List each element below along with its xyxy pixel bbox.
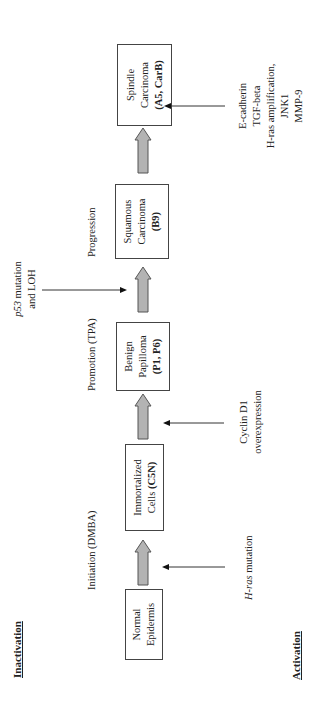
box-spindle-carcinoma: Spindle Carcinoma (A5, CarB) (117, 44, 172, 126)
box-line1: Squamous (121, 200, 135, 244)
box-line2: Papilloma (136, 335, 150, 378)
carcinogenesis-diagram: Inactivation Activation Initiation (DMBA… (0, 0, 311, 711)
activation-event-cyclin-d1: Cyclin D1 overexpression (237, 382, 265, 462)
arrow-up-icon (163, 418, 225, 428)
activation-event-late-markers: E-cadherin TGF-beta H-ras amplification,… (236, 56, 306, 156)
progression-arrow-icon (134, 393, 152, 440)
box-line1: Spindle (124, 69, 138, 101)
progression-arrow-icon (134, 127, 152, 174)
cell-line-label: (B9) (149, 212, 163, 231)
box-squamous-carcinoma: Squamous Carcinoma (B9) (115, 184, 169, 259)
inactivation-event-p53: p53 mutation and LOH (11, 257, 39, 321)
stage-label-initiation: Initiation (DMBA) (85, 510, 99, 590)
stage-label-promotion: Promotion (TPA) (85, 318, 99, 391)
box-line2: Epidermis (144, 603, 158, 646)
box-benign-papilloma: Benign Papilloma (P1, P6) (116, 322, 170, 391)
box-immortalized-cells: Immortalized Cells (C5N) (125, 444, 164, 531)
inactivation-header: Inactivation (11, 621, 23, 678)
cell-line-label: (C5N) (146, 462, 157, 489)
arrow-up-icon (164, 101, 226, 111)
box-line2: Carcinoma (135, 198, 149, 244)
arrow-up-icon (162, 562, 226, 572)
box-line2: Cells (C5N) (145, 462, 159, 514)
cell-line-label: (P1, P6) (150, 339, 164, 375)
box-line1: Benign (122, 341, 136, 371)
activation-header: Activation (290, 631, 302, 680)
box-line1: Immortalized (131, 459, 145, 516)
box-line2: Carcinoma (138, 62, 152, 108)
box-line1: Normal (130, 608, 144, 640)
progression-arrow-icon (134, 266, 152, 313)
activation-event-hras: H-ras mutation (242, 536, 256, 600)
arrow-down-icon (42, 285, 128, 295)
stage-label-progression: Progression (85, 207, 99, 257)
progression-arrow-icon (134, 539, 152, 586)
box-normal-epidermis: Normal Epidermis (125, 589, 163, 660)
